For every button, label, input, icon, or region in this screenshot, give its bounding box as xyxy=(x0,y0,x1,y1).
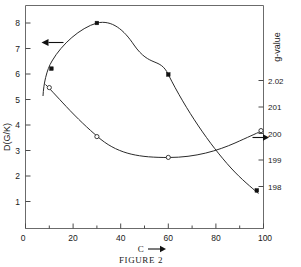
figure-caption: FIGURE 2 xyxy=(119,255,163,265)
right-axis-annotation-arrow xyxy=(253,134,270,141)
series-g-value-line xyxy=(46,85,261,158)
bottom-axis-ticks xyxy=(26,224,264,229)
x-axis-title: C xyxy=(138,244,166,254)
right-tick-label-198: 198 xyxy=(268,183,282,192)
series-d-gk xyxy=(43,21,259,193)
x-tick-label-0: 0 xyxy=(21,233,26,243)
x-tick-label-60: 60 xyxy=(164,233,174,243)
x-tick-label-20: 20 xyxy=(68,233,78,243)
right-tick-label-199: 199 xyxy=(268,156,282,165)
left-tick-label-4: 4 xyxy=(15,120,20,130)
right-tick-label-200: 200 xyxy=(268,130,282,139)
data-point xyxy=(50,67,54,71)
left-axis-ticks xyxy=(26,23,31,202)
left-axis-tick-labels: 8 7 6 5 4 3 2 1 xyxy=(15,18,20,207)
right-tick-label-202: 2.02 xyxy=(268,77,284,86)
left-tick-label-2: 2 xyxy=(15,171,20,181)
left-axis-annotation-arrow xyxy=(42,39,64,46)
x-tick-label-100: 100 xyxy=(258,233,272,243)
left-tick-label-8: 8 xyxy=(15,18,20,28)
data-point xyxy=(166,155,170,159)
left-tick-label-6: 6 xyxy=(15,69,20,79)
x-tick-label-40: 40 xyxy=(116,233,126,243)
right-axis-title-label: g-value xyxy=(272,32,282,62)
data-point xyxy=(95,21,99,25)
left-tick-label-1: 1 xyxy=(15,197,20,207)
left-tick-label-5: 5 xyxy=(15,95,20,105)
data-point xyxy=(95,135,99,139)
left-axis-title: D(G/K) xyxy=(2,123,12,151)
right-axis-title: g-value xyxy=(272,32,282,62)
right-axis-tick-labels: 2.02 201 200 199 198 xyxy=(268,77,284,192)
data-point xyxy=(167,73,171,77)
right-axis-ticks xyxy=(259,81,264,187)
right-tick-label-201: 201 xyxy=(268,103,282,112)
figure-caption-label: FIGURE 2 xyxy=(119,255,163,265)
left-tick-label-7: 7 xyxy=(15,44,20,54)
series-d-gk-line xyxy=(43,22,259,193)
left-arrow-icon xyxy=(42,39,49,46)
bottom-axis-tick-labels: 0 20 40 60 80 100 xyxy=(21,233,273,243)
left-tick-label-3: 3 xyxy=(15,146,20,156)
series-g-value xyxy=(46,85,264,160)
left-axis-title-label: D(G/K) xyxy=(2,123,12,151)
data-point xyxy=(259,129,263,133)
plot-frame xyxy=(26,6,264,229)
figure-container: 8 7 6 5 4 3 2 1 D(G/K) xyxy=(0,0,301,267)
x-axis-arrow-icon xyxy=(160,246,166,252)
x-axis-title-label: C xyxy=(138,244,145,254)
chart-canvas: 8 7 6 5 4 3 2 1 D(G/K) xyxy=(0,0,301,267)
x-tick-label-80: 80 xyxy=(211,233,221,243)
data-point xyxy=(255,189,259,193)
data-point xyxy=(47,86,51,90)
